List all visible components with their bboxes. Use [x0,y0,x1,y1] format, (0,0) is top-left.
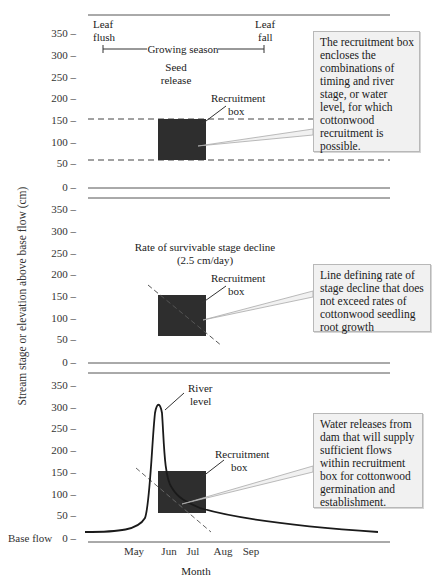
leaf-flush-label-2: flush [93,31,116,43]
tick-50: 50 – [57,509,77,521]
tick-250: 250 – [51,422,76,434]
recruitment-box-label: Recruitment [215,448,269,460]
recruitment-box [158,295,206,336]
tick-100: 100 – [51,136,76,148]
y-ticks-panel-3: 350 – 300 – 250 – 200 – 150 – 100 – 50 –… [51,379,76,544]
tick-200: 200 – [51,92,76,104]
y-ticks-panel-1: 350 – 300 – 250 – 200 – 150 – 100 – 50 –… [51,27,76,193]
tick-50: 50 – [57,157,77,169]
tick-300: 300 – [51,401,76,413]
y-axis-title: Stream stage or elevation above base flo… [16,156,28,436]
tick-250: 250 – [51,71,76,83]
callout-pointer [203,291,313,320]
seed-release-label-2: release [161,74,192,86]
box-leader-line [202,106,226,124]
month-jun: Jun [161,545,177,557]
month-jul: Jul [187,545,200,557]
tick-200: 200 – [51,444,76,456]
box-leader-line [202,460,224,477]
tick-150: 150 – [51,290,76,302]
stage-decline-label: Rate of survivable stage decline [135,241,276,253]
callout-decline-line: Line defining rate of stage decline that… [313,264,431,332]
leaf-flush-label: Leaf [93,18,113,30]
tick-150: 150 – [51,114,76,126]
x-axis-title: Month [181,565,211,577]
tick-300: 300 – [51,49,76,61]
tick-0: 0 – [62,532,76,544]
callout-pointer [198,129,313,146]
river-level-label-2: level [190,395,211,407]
x-ticks: May Jun Jul Aug Sep [124,545,260,557]
tick-300: 300 – [51,225,76,237]
y-ticks-panel-2: 350 – 300 – 250 – 200 – 150 – 100 – 50 –… [51,203,76,368]
base-flow-label: Base flow [8,532,52,544]
tick-250: 250 – [51,247,76,259]
tick-200: 200 – [51,268,76,280]
callout-recruitment-box: The recruitment box encloses the combina… [313,31,420,152]
tick-0: 0 – [62,181,76,193]
recruitment-box-label-2: box [228,105,245,117]
box-leader-line [202,286,226,303]
seed-release-label: Seed [165,61,187,73]
month-aug: Aug [214,545,233,557]
growing-season-bracket: Growing season [103,43,264,55]
callout-water-releases: Water releases from dam that will supply… [313,413,423,508]
month-sep: Sep [243,545,260,557]
tick-350: 350 – [51,203,76,215]
recruitment-box [158,119,206,160]
river-level-label: River [188,382,213,394]
leaf-fall-label-2: fall [258,31,273,43]
tick-350: 350 – [51,379,76,391]
leaf-fall-label: Leaf [255,18,275,30]
tick-100: 100 – [51,312,76,324]
month-may: May [124,545,145,557]
recruitment-box-label-2: box [231,461,248,473]
tick-350: 350 – [51,27,76,39]
recruitment-box-label: Recruitment [211,92,265,104]
recruitment-box-label: Recruitment [211,272,265,284]
tick-50: 50 – [57,333,77,345]
tick-100: 100 – [51,488,76,500]
river-leader-line [165,393,184,410]
tick-150: 150 – [51,466,76,478]
recruitment-box-label-2: box [228,285,245,297]
stage-decline-rate: (2.5 cm/day) [177,254,234,267]
growing-season-label: Growing season [147,43,219,55]
tick-0: 0 – [62,356,76,368]
